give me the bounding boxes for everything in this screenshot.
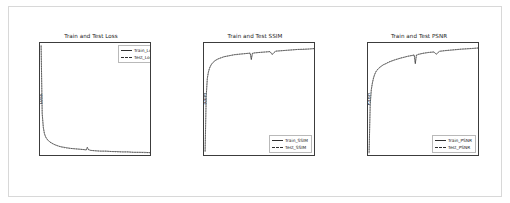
legend-label-train-loss: Train_Loss (134, 48, 151, 53)
legend-item-train-psnr: Train_PSNR (435, 138, 472, 143)
legend-item-test-ssim: Test_SSIM (272, 145, 308, 150)
legend-item-test-psnr: Test_PSNR (435, 145, 472, 150)
x-tick-mark (106, 155, 107, 156)
plot-area-loss: Train_Loss Test_Loss Loss Epoch 0.0100.0… (39, 42, 151, 156)
y-tick-mark (39, 47, 40, 48)
x-tick-mark (40, 155, 41, 156)
legend-key-solid-icon (435, 140, 446, 141)
x-tick-mark (434, 155, 435, 156)
legend-item-test-loss: Test_Loss (121, 55, 151, 60)
y-tick-mark (367, 131, 368, 132)
x-tick-mark (456, 155, 457, 156)
y-tick-mark (203, 140, 204, 141)
y-tick-mark (203, 97, 204, 98)
y-tick-mark (367, 64, 368, 65)
y-tick-mark (39, 66, 40, 67)
x-tick-mark (292, 155, 293, 156)
x-tick-mark (248, 155, 249, 156)
legend-label-test-loss: Test_Loss (134, 55, 151, 60)
x-tick-mark (128, 155, 129, 156)
y-tick-mark (39, 124, 40, 125)
x-tick-mark (204, 155, 205, 156)
chart-panel-ssim: Train and Test SSIM Train_SSIM Test_SSIM… (173, 7, 337, 196)
y-axis-label-loss: Loss (39, 77, 43, 121)
y-tick-mark (203, 75, 204, 76)
y-tick-mark (39, 143, 40, 144)
y-tick-mark (39, 85, 40, 86)
legend-key-dashed-icon (272, 147, 283, 148)
legend-psnr: Train_PSNR Test_PSNR (432, 135, 476, 153)
x-tick-mark (390, 155, 391, 156)
y-tick-mark (367, 98, 368, 99)
y-tick-mark (203, 53, 204, 54)
y-tick-mark (367, 115, 368, 116)
legend-key-dashed-icon (121, 57, 132, 58)
legend-label-test-psnr: Test_PSNR (448, 145, 470, 150)
figure-canvas: Train and Test Loss Train_Loss Test_Loss… (8, 6, 502, 197)
legend-label-train-ssim: Train_SSIM (285, 138, 308, 143)
x-tick-mark (478, 155, 479, 156)
y-tick-mark (367, 148, 368, 149)
x-tick-mark (368, 155, 369, 156)
x-tick-mark (150, 155, 151, 156)
legend-key-solid-icon (272, 140, 283, 141)
y-tick-mark (367, 48, 368, 49)
chart-title-psnr: Train and Test PSNR (337, 33, 501, 39)
x-tick-mark (412, 155, 413, 156)
x-tick-mark (62, 155, 63, 156)
legend-loss: Train_Loss Test_Loss (118, 45, 151, 63)
plot-area-psnr: Train_PSNR Test_PSNR PSNR Epoch 16171819… (367, 42, 479, 156)
chart-title-ssim: Train and Test SSIM (173, 33, 337, 39)
legend-item-train-ssim: Train_SSIM (272, 138, 308, 143)
y-tick-mark (367, 81, 368, 82)
x-tick-mark (314, 155, 315, 156)
plot-area-ssim: Train_SSIM Test_SSIM SSIM Epoch 0.600.65… (203, 42, 315, 156)
legend-label-train-psnr: Train_PSNR (448, 138, 472, 143)
legend-key-solid-icon (121, 50, 132, 51)
x-tick-mark (226, 155, 227, 156)
y-tick-mark (203, 118, 204, 119)
legend-key-dashed-icon (435, 147, 446, 148)
chart-title-loss: Train and Test Loss (9, 33, 173, 39)
x-tick-mark (270, 155, 271, 156)
x-tick-mark (84, 155, 85, 156)
legend-item-train-loss: Train_Loss (121, 48, 151, 53)
y-tick-mark (39, 104, 40, 105)
y-axis-label-ssim: SSIM (203, 77, 207, 121)
chart-panel-loss: Train and Test Loss Train_Loss Test_Loss… (9, 7, 173, 196)
legend-ssim: Train_SSIM Test_SSIM (269, 135, 312, 153)
chart-panel-psnr: Train and Test PSNR Train_PSNR Test_PSNR… (337, 7, 501, 196)
legend-label-test-ssim: Test_SSIM (285, 145, 306, 150)
